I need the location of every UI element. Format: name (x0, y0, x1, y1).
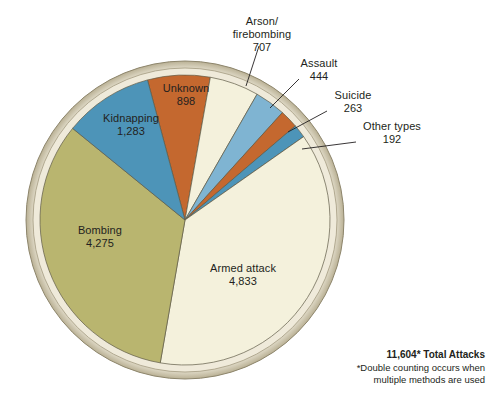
callout-label-suicide-value: 263 (320, 102, 386, 115)
callout-label-other-types-value: 192 (350, 133, 434, 146)
slice-label-kidnapping-text: Kidnapping (103, 112, 159, 124)
chart-footnote: 11,604* Total Attacks *Double counting o… (335, 349, 485, 386)
pie-chart-figure: Unknown 898 Kidnapping 1,283 Bombing 4,2… (0, 0, 487, 409)
slice-label-armed-attack: Armed attack 4,833 (192, 262, 294, 288)
callout-label-assault-value: 444 (285, 70, 353, 83)
callout-label-assault-line1: Assault (301, 57, 338, 69)
slice-label-kidnapping-value: 1,283 (88, 125, 174, 138)
callout-label-other-types-line1: Other types (363, 120, 421, 132)
callout-label-arson-value: 707 (212, 41, 312, 54)
callout-label-suicide: Suicide 263 (320, 89, 386, 115)
pie-slices-group (40, 75, 330, 365)
callout-label-assault: Assault 444 (285, 57, 353, 83)
callout-label-other-types: Other types 192 (350, 120, 434, 146)
slice-label-unknown-value: 898 (148, 95, 224, 108)
callout-label-suicide-line1: Suicide (335, 89, 372, 101)
slice-label-armed-attack-text: Armed attack (210, 262, 276, 274)
footnote-line2: multiple methods are used (335, 374, 485, 386)
slice-label-bombing-text: Bombing (78, 224, 122, 236)
slice-label-armed-attack-value: 4,833 (192, 275, 294, 288)
slice-label-bombing: Bombing 4,275 (60, 224, 140, 250)
slice-label-unknown-text: Unknown (163, 82, 210, 94)
footnote-line1: *Double counting occurs when (335, 362, 485, 374)
callout-label-arson-line2: firebombing (212, 28, 312, 41)
callout-label-arson: Arson/ firebombing 707 (212, 15, 312, 54)
slice-label-kidnapping: Kidnapping 1,283 (88, 112, 174, 138)
total-attacks-label: 11,604* Total Attacks (335, 349, 485, 361)
slice-label-bombing-value: 4,275 (60, 237, 140, 250)
pie-chart-svg (0, 0, 487, 409)
callout-label-arson-line1: Arson/ (246, 15, 278, 27)
slice-label-unknown: Unknown 898 (148, 82, 224, 108)
